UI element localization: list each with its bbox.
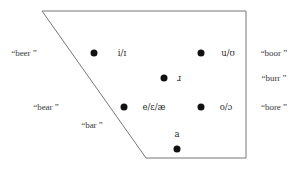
keyword-label-bar: “bar ”	[81, 121, 103, 130]
ipa-label-high-front: i/ɪ	[118, 49, 126, 58]
vowel-quadrilateral-figure: i/ɪu/ʊɹe/ɛ/æo/ɔa “beer ”“boor ”“burr ”“b…	[0, 0, 298, 176]
vowel-dot-mid-back	[198, 104, 205, 111]
keyword-label-beer: “beer ”	[11, 49, 37, 58]
vowel-quadrilateral-outline	[0, 0, 298, 176]
ipa-label-low-central: a	[174, 130, 179, 139]
vowel-space-polygon	[42, 11, 246, 158]
keyword-label-bear: “bear ”	[33, 103, 59, 112]
vowel-dot-mid-front	[121, 104, 128, 111]
vowel-dot-high-back	[198, 50, 205, 57]
keyword-label-boor: “boor ”	[261, 49, 288, 58]
ipa-label-central-rhotic: ɹ	[177, 74, 181, 83]
vowel-dot-high-front	[91, 50, 98, 57]
ipa-label-mid-front: e/ɛ/æ	[142, 103, 165, 112]
keyword-label-burr: “burr ”	[261, 74, 286, 83]
ipa-label-mid-back: o/ɔ	[220, 103, 233, 112]
vowel-dot-low-central	[174, 146, 181, 153]
keyword-label-bore: “bore ”	[261, 103, 287, 112]
vowel-dot-central-rhotic	[161, 75, 168, 82]
ipa-label-high-back: u/ʊ	[221, 49, 235, 58]
